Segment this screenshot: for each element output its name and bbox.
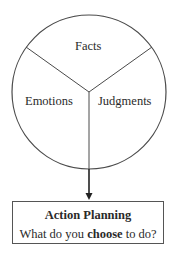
segment-label-emotions: Emotions [25,94,73,109]
arrow-head-icon [86,193,93,200]
segment-label-facts: Facts [75,39,101,54]
segment-label-judgments: Judgments [98,94,151,109]
question-suffix: to do? [123,227,157,241]
action-planning-box: Action Planning What do you choose to do… [12,201,164,244]
action-planning-question: What do you choose to do? [13,227,163,242]
question-prefix: What do you [19,227,87,241]
action-planning-title: Action Planning [13,208,163,223]
question-emphasis: choose [87,227,122,241]
